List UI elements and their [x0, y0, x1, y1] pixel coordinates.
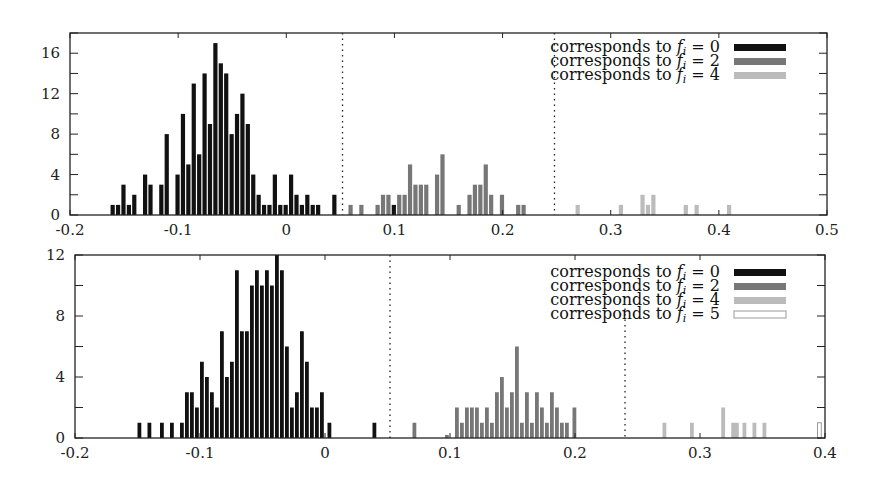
bar [311, 205, 315, 215]
bar [240, 94, 244, 215]
bar [500, 195, 504, 215]
y-tick-label: 8 [55, 307, 65, 325]
legend-label: corresponds to fi = 5 [550, 304, 720, 325]
bar [210, 392, 214, 438]
bottom-histogram: -0.2-0.100.10.20.30.404812corresponds to… [46, 246, 837, 462]
bar [522, 205, 526, 215]
bar [202, 73, 206, 215]
bar [640, 195, 644, 215]
bar [576, 205, 580, 215]
bar [413, 423, 417, 438]
bar [230, 134, 234, 215]
bar [695, 205, 699, 215]
y-tick-label: 0 [55, 429, 65, 447]
bar [565, 423, 569, 438]
series-0 [138, 255, 377, 438]
bar [545, 423, 549, 438]
bar [818, 423, 822, 438]
bar [200, 362, 204, 438]
bar [467, 195, 471, 215]
bar [500, 377, 504, 438]
bar [240, 331, 244, 438]
bar [181, 114, 185, 215]
bar [213, 43, 217, 215]
bar [235, 114, 239, 215]
bar [573, 408, 577, 439]
bar [763, 423, 767, 438]
bar [684, 205, 688, 215]
bar [465, 408, 469, 439]
legend-swatch [734, 297, 786, 304]
bar [332, 195, 336, 215]
bar [408, 164, 412, 215]
legend-swatch [734, 44, 786, 51]
x-tick-label: 0.2 [491, 221, 515, 239]
x-tick-label: 0.4 [707, 221, 731, 239]
bar [186, 164, 190, 215]
bar [470, 408, 474, 439]
series-0 [111, 43, 396, 215]
bar [132, 195, 136, 215]
bar [485, 408, 489, 439]
bar [419, 185, 423, 215]
legend-swatch [734, 283, 786, 290]
bar [540, 408, 544, 439]
bar [295, 392, 299, 438]
bar [127, 205, 131, 215]
legend-swatch [734, 72, 786, 79]
series-1 [348, 154, 525, 215]
y-tick-label: 12 [41, 85, 60, 103]
series-2 [576, 195, 732, 215]
bar [121, 185, 125, 215]
bar [328, 423, 332, 438]
bar [478, 185, 482, 215]
y-tick-label: 8 [50, 125, 60, 143]
y-tick-label: 0 [50, 206, 60, 224]
histogram-figure: -0.2-0.100.10.20.30.40.50481216correspon… [0, 0, 872, 493]
bar [646, 205, 650, 215]
bar [138, 423, 142, 438]
bar [148, 185, 152, 215]
bar [170, 423, 174, 438]
bar [220, 331, 224, 438]
x-tick-label: 0 [282, 221, 292, 239]
bar [480, 423, 484, 438]
bar [192, 84, 196, 215]
x-tick-label: 0.2 [563, 444, 587, 462]
bar [397, 195, 401, 215]
bar [175, 175, 179, 215]
bar [278, 205, 282, 215]
series-2 [663, 408, 767, 439]
y-tick-label: 4 [55, 368, 65, 386]
bar [305, 195, 309, 215]
bar [275, 255, 279, 438]
bar [195, 408, 199, 439]
bar [148, 423, 152, 438]
bar [310, 408, 314, 439]
bar [111, 205, 115, 215]
bar [530, 423, 534, 438]
x-tick-label: -0.1 [164, 221, 193, 239]
bar [510, 392, 514, 438]
bar [245, 331, 249, 438]
y-tick-label: 4 [50, 166, 60, 184]
x-tick-label: 0.1 [382, 221, 406, 239]
bar [273, 175, 277, 215]
bar [435, 175, 439, 215]
bar [743, 423, 747, 438]
bar [386, 195, 390, 215]
bar [143, 175, 147, 215]
bar [490, 423, 494, 438]
bar [753, 423, 757, 438]
bar [520, 423, 524, 438]
bar [555, 408, 559, 439]
bar [205, 377, 209, 438]
bar [651, 195, 655, 215]
bar [185, 392, 189, 438]
bar [280, 270, 284, 438]
series-3 [818, 423, 822, 438]
bar [290, 408, 294, 439]
x-tick-label: 0.5 [815, 221, 839, 239]
bar [165, 134, 169, 215]
bar [315, 408, 319, 439]
